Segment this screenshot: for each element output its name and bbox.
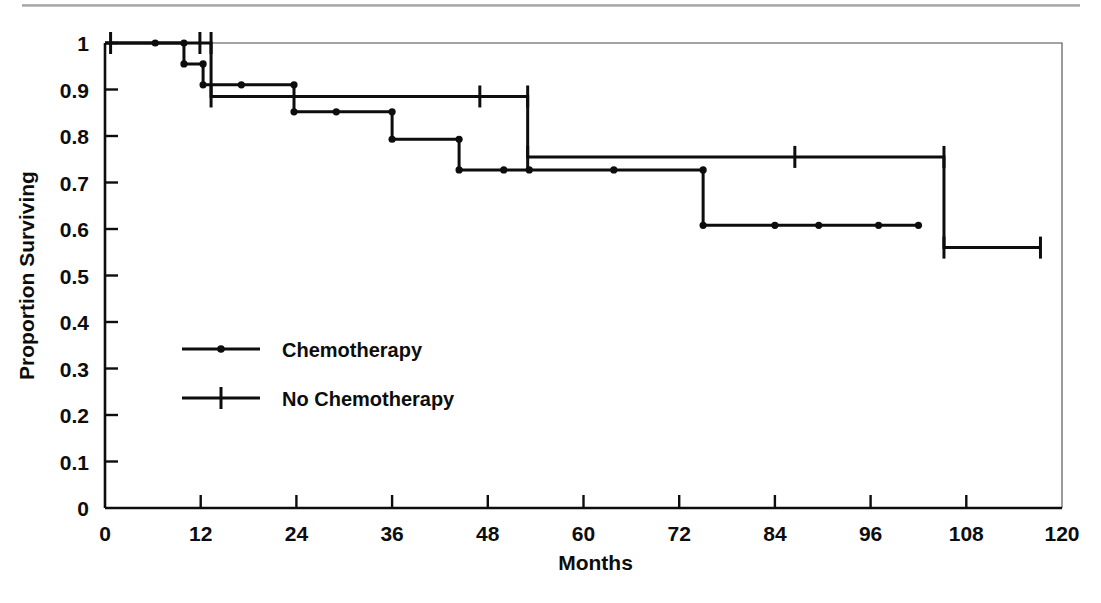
x-tick-label-60: 60 [572, 522, 595, 545]
no-chemotherapy-step-line [105, 43, 1040, 248]
legend-entry-2: No Chemotherapy [182, 387, 455, 410]
x-tick-label-72: 72 [668, 522, 691, 545]
survival-curve-figure: 01224364860728496108120 00.10.20.30.40.5… [0, 0, 1101, 603]
chemo-censor-7 [815, 222, 822, 229]
x-axis-title: Months [558, 551, 633, 574]
chemo-event-3 [199, 81, 206, 88]
x-tick-label-48: 48 [476, 522, 500, 545]
y-tick-label-0p7: 0.7 [60, 172, 89, 195]
chemo-censor-6 [771, 222, 778, 229]
series-chemotherapy [105, 39, 922, 228]
y-tick-label-0: 0 [77, 497, 89, 520]
chemo-event-2 [199, 60, 206, 67]
chemo-event-12 [915, 222, 922, 229]
y-tick-label-0p1: 0.1 [60, 451, 90, 474]
y-tick-label-0p2: 0.2 [60, 404, 89, 427]
scan-artifact-rule [22, 4, 1080, 7]
chemo-censor-8 [875, 222, 882, 229]
chemotherapy-step-line [105, 43, 918, 225]
x-tick-label-0: 0 [99, 522, 111, 545]
plot-frame [105, 43, 1062, 508]
chemo-event-9 [455, 166, 462, 173]
chemo-event-4 [290, 81, 297, 88]
kaplan-meier-plot: 01224364860728496108120 00.10.20.30.40.5… [0, 0, 1101, 603]
x-tick-label-96: 96 [859, 522, 882, 545]
y-tick-label-0p9: 0.9 [60, 79, 89, 102]
x-axis-ticks [201, 495, 967, 508]
y-axis-title: Proportion Surviving [15, 171, 38, 380]
chemo-censor-1 [238, 81, 245, 88]
chemo-censor-2 [333, 108, 340, 115]
chemo-censor-5 [610, 166, 617, 173]
chemo-censor-3 [500, 166, 507, 173]
chemo-event-10 [700, 166, 707, 173]
plot-box-top-right [105, 43, 1062, 508]
chemo-event-11 [700, 222, 707, 229]
chart-legend: ChemotherapyNo Chemotherapy [182, 339, 455, 410]
x-tick-label-120: 120 [1044, 522, 1079, 545]
y-axis-ticks [105, 43, 118, 462]
x-tick-label-12: 12 [189, 522, 212, 545]
y-tick-label-0p6: 0.6 [60, 218, 89, 241]
y-tick-label-1: 1 [77, 32, 89, 55]
x-tick-label-84: 84 [763, 522, 787, 545]
x-tick-label-108: 108 [949, 522, 984, 545]
legend-entry-1: Chemotherapy [182, 339, 423, 361]
y-tick-label-0p8: 0.8 [60, 125, 90, 148]
x-tick-label-24: 24 [285, 522, 309, 545]
legend-dot-marker-icon [217, 345, 225, 353]
chemo-event-7 [389, 136, 396, 143]
y-tick-label-0p3: 0.3 [60, 358, 89, 381]
y-tick-label-0p5: 0.5 [60, 265, 90, 288]
legend-label-1: Chemotherapy [282, 339, 423, 361]
x-axis-tick-labels: 01224364860728496108120 [99, 522, 1079, 545]
chemo-event-6 [389, 108, 396, 115]
y-axis-tick-labels: 00.10.20.30.40.50.60.70.80.91 [60, 32, 90, 520]
chemo-event-5 [290, 108, 297, 115]
chemo-event-1 [180, 60, 187, 67]
y-tick-label-0p4: 0.4 [60, 311, 90, 334]
legend-label-2: No Chemotherapy [282, 388, 455, 410]
x-tick-label-36: 36 [380, 522, 403, 545]
chemo-event-8 [455, 136, 462, 143]
